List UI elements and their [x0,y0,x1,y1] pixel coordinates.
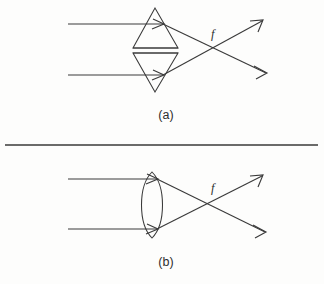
lower-prism-shape [133,53,178,92]
panel-a-caption: (a) [158,108,173,122]
panel-a-group: f (a) [68,8,267,122]
optics-figure: f (a) f (b) [0,0,324,284]
panel-b-focal-label: f [211,181,216,195]
ray-diagram-canvas: f (a) f (b) [0,0,324,284]
panel-b-group: f (b) [68,172,266,269]
panel-b-outgoing-ray-from-bottom [157,176,262,229]
panel-a-focal-label: f [211,27,216,41]
panel-b-caption: (b) [158,255,173,269]
